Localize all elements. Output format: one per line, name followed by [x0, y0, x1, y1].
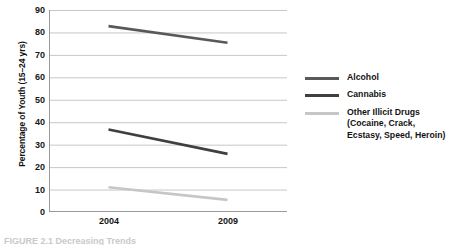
y-tick-label: 90	[21, 6, 45, 15]
x-tick-label-2009: 2009	[198, 216, 258, 226]
legend-swatch-other-illicit-drugs	[305, 112, 339, 115]
figure-caption: FIGURE 2.1 Decreasing Trends	[4, 236, 136, 245]
y-tick-label: 30	[21, 141, 45, 150]
plot-area	[49, 10, 287, 212]
y-tick-label: 0	[21, 208, 45, 217]
x-tick-label-2004: 2004	[79, 216, 139, 226]
y-tick-label: 20	[21, 163, 45, 172]
series-line	[109, 187, 228, 200]
series-line	[109, 129, 228, 153]
legend-swatch-alcohol	[305, 77, 339, 80]
legend-label-other-illicit-drugs: Other Illicit Drugs (Cocaine, Crack, Ecs…	[347, 107, 445, 141]
y-tick-label: 60	[21, 73, 45, 82]
legend-item-cannabis: Cannabis	[305, 89, 465, 100]
y-tick-label: 70	[21, 51, 45, 60]
legend-swatch-cannabis	[305, 94, 339, 97]
legend-item-alcohol: Alcohol	[305, 72, 465, 83]
gridlines	[49, 11, 287, 213]
y-tick-label: 50	[21, 96, 45, 105]
y-tick-label: 10	[21, 186, 45, 195]
legend-label-cannabis: Cannabis	[347, 89, 386, 100]
data-series	[109, 26, 228, 200]
axis-lines	[49, 10, 287, 212]
y-tick-label: 40	[21, 118, 45, 127]
series-line	[109, 26, 228, 43]
figure-container: Percentage of Youth (15–24 yrs) 90 80 70…	[0, 0, 466, 245]
legend-item-other-illicit-drugs: Other Illicit Drugs (Cocaine, Crack, Ecs…	[305, 107, 465, 141]
y-tick-label: 80	[21, 28, 45, 37]
legend-label-alcohol: Alcohol	[347, 72, 379, 83]
chart-legend: Alcohol Cannabis Other Illicit Drugs (Co…	[305, 72, 465, 147]
chart-canvas	[49, 10, 287, 212]
y-axis-tick-labels: 90 80 70 60 50 40 30 20 10 0	[18, 10, 45, 212]
